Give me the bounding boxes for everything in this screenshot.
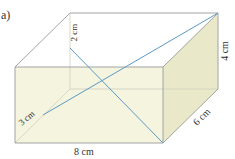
label-8cm: 8 cm (74, 147, 94, 157)
part-label: a) (1, 9, 10, 21)
right-face (163, 13, 218, 143)
cuboid-svg (0, 0, 235, 159)
front-face (15, 67, 163, 143)
label-4cm: 4 cm (220, 41, 230, 61)
label-2cm: 2 cm (70, 24, 79, 42)
